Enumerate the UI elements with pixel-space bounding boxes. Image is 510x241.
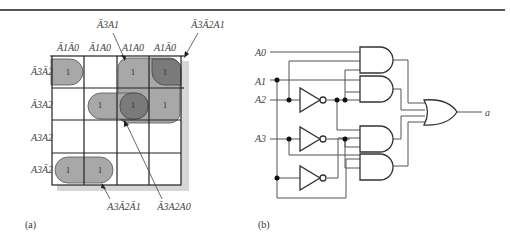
- and-gate-2: [360, 76, 393, 102]
- and-gate-1: [360, 47, 393, 73]
- cell-r1c3: 1: [163, 100, 168, 110]
- row-header-0: Ā3Ā2: [30, 66, 53, 77]
- cell-r0c0: 1: [66, 67, 71, 77]
- not-gate-a3: [300, 127, 326, 151]
- cell-r1c2: 1: [131, 100, 136, 110]
- row-header-1: Ā3A2: [30, 99, 53, 110]
- cell-r0c2: 1: [131, 67, 136, 77]
- not-gate-a2: [300, 88, 326, 112]
- input-a3: A3: [254, 133, 266, 144]
- col-header-0: Ā1Ā0: [56, 42, 79, 53]
- output-a: a: [485, 107, 490, 118]
- not-gate-a1: [300, 166, 326, 190]
- annotation-bottom-left: A3Ā2Ā1: [106, 201, 140, 212]
- figure-canvas: 1 1 1 1 1 1 1 1 Ā1Ā0 Ā1A0 A1A0 A1Ā0 Ā3Ā2…: [0, 0, 510, 241]
- col-header-1: Ā1A0: [88, 42, 111, 53]
- cell-r0c3: 1: [163, 67, 168, 77]
- cell-r3c0: 1: [66, 165, 71, 175]
- col-header-3: A1Ā0: [153, 42, 176, 53]
- figure: 1 1 1 1 1 1 1 1 Ā1Ā0 Ā1A0 A1A0 A1Ā0 Ā3Ā2…: [0, 0, 510, 241]
- cell-r1c1: 1: [98, 100, 103, 110]
- annotation-bottom-right: Ā3A2A0: [156, 201, 190, 212]
- input-a0: A0: [254, 47, 266, 58]
- col-header-2: A1A0: [121, 42, 144, 53]
- annotation-top-left: Ā3A1: [96, 19, 119, 30]
- row-headers: Ā3Ā2 Ā3A2 A3A2 A3Ā2: [30, 66, 53, 175]
- input-a1: A1: [254, 76, 266, 87]
- or-gate: [424, 100, 457, 125]
- row-header-2: A3A2: [30, 132, 53, 143]
- annotation-top-right: Ā3Ā2A1: [190, 19, 224, 30]
- caption-b: (b): [258, 219, 270, 231]
- logic-circuit: A0 A1 A2 A3: [254, 47, 490, 231]
- input-a2: A2: [254, 94, 266, 105]
- and-gate-3: [360, 126, 393, 152]
- caption-a: (a): [25, 219, 36, 231]
- and-gate-4: [360, 154, 393, 180]
- row-header-3: A3Ā2: [30, 164, 53, 175]
- karnaugh-map: 1 1 1 1 1 1 1 1 Ā1Ā0 Ā1A0 A1A0 A1Ā0 Ā3Ā2…: [25, 19, 225, 231]
- cell-r3c1: 1: [98, 165, 103, 175]
- column-headers: Ā1Ā0 Ā1A0 A1A0 A1Ā0: [56, 42, 176, 53]
